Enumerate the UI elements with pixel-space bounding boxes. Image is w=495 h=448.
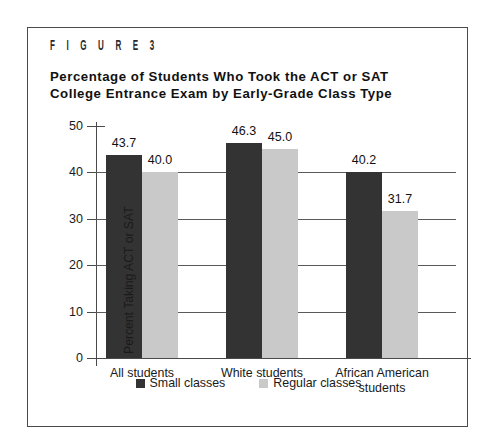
y-tick-label-10: 10 (69, 305, 83, 319)
bar-value-african-american-students-small: 40.2 (352, 153, 376, 167)
y-tick-50 (87, 126, 105, 127)
y-axis-line (96, 122, 97, 366)
y-tick-label-0: 0 (76, 351, 83, 365)
bar-value-white-students-small: 46.3 (232, 124, 256, 138)
legend-item-small-classes[interactable]: Small classes (136, 376, 226, 390)
y-tick-label-20: 20 (69, 258, 83, 272)
y-tick-20 (87, 265, 96, 266)
y-tick-label-50: 50 (69, 119, 83, 133)
chart-title-line-2: College Entrance Exam by Early-Grade Cla… (50, 85, 450, 102)
chart-title: Percentage of Students Who Took the ACT … (50, 68, 450, 102)
figure-number-label: F I G U R E 3 (50, 37, 159, 54)
legend-label-small-classes: Small classes (150, 376, 226, 390)
legend: Small classes Regular classes (28, 376, 469, 390)
bar-value-all-students-regular: 40.0 (148, 153, 172, 167)
y-tick-0 (87, 358, 105, 359)
y-tick-label-30: 30 (69, 212, 83, 226)
legend-swatch-regular-icon (259, 379, 268, 388)
bar-african-american-students-regular[interactable] (382, 211, 418, 358)
y-axis-title: Percent Taking ACT or SAT (122, 206, 136, 354)
y-tick-10 (87, 312, 96, 313)
bar-white-students-regular[interactable] (262, 149, 298, 358)
legend-swatch-small-icon (136, 379, 145, 388)
y-tick-30 (87, 219, 96, 220)
bar-value-white-students-regular: 45.0 (268, 130, 292, 144)
bar-white-students-small[interactable] (226, 143, 262, 358)
bar-all-students-regular[interactable] (142, 172, 178, 358)
x-axis-line (87, 358, 471, 359)
bar-african-american-students-small[interactable] (346, 172, 382, 359)
plot-area: 50 40 30 20 10 0 43.7 40.0 46.3 45.0 40.… (96, 126, 456, 358)
bar-value-all-students-small: 43.7 (112, 136, 136, 150)
figure-frame: F I G U R E 3 Percentage of Students Who… (27, 27, 468, 427)
y-tick-label-40: 40 (69, 165, 83, 179)
legend-label-regular-classes: Regular classes (273, 376, 361, 390)
chart-title-line-1: Percentage of Students Who Took the ACT … (50, 68, 450, 85)
legend-item-regular-classes[interactable]: Regular classes (259, 376, 361, 390)
y-tick-40 (87, 172, 96, 173)
bar-value-african-american-students-regular: 31.7 (388, 192, 412, 206)
